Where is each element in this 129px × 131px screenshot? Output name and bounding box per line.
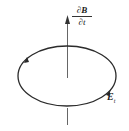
axis-arrowhead-icon <box>65 15 70 24</box>
e-subscript: t <box>114 98 116 104</box>
dt-symbol: ∂t <box>79 17 86 27</box>
e-field-label: Et <box>107 91 115 104</box>
dB-dt-label: ∂B ∂t <box>72 6 92 27</box>
b-symbol: B <box>81 5 87 15</box>
diagram-graphics <box>0 0 129 131</box>
fraction-numerator: ∂B <box>72 6 92 17</box>
e-symbol: E <box>107 91 114 102</box>
field-loop <box>18 46 116 106</box>
fraction-denominator: ∂t <box>72 17 92 27</box>
induced-electric-field-diagram: ∂B ∂t Et <box>0 0 129 131</box>
